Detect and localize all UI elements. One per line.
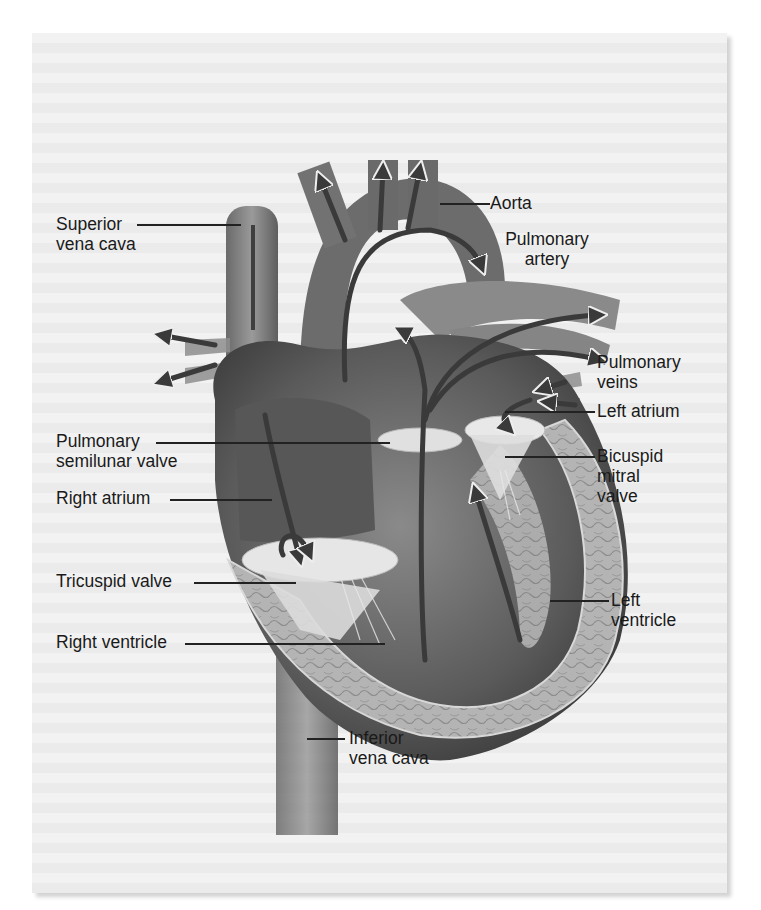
leader-tricuspid-valve xyxy=(194,582,296,584)
pulmonary-semilunar-valve-shape xyxy=(378,428,462,452)
label-right-atrium: Right atrium xyxy=(56,488,150,508)
right-atrium-chamber xyxy=(235,398,375,542)
label-pulmonary-artery: Pulmonary artery xyxy=(488,229,606,269)
label-left-atrium: Left atrium xyxy=(597,401,680,421)
label-superior-vena-cava: Superior vena cava xyxy=(56,214,136,254)
label-pulmonary-veins: Pulmonary veins xyxy=(597,352,681,392)
leader-left-atrium xyxy=(505,411,595,413)
label-tricuspid-valve: Tricuspid valve xyxy=(56,571,172,591)
leader-pulmonary-semilunar-valve xyxy=(156,442,390,444)
leader-bicuspid-mitral-valve xyxy=(505,456,595,458)
label-aorta: Aorta xyxy=(490,193,532,213)
label-pulmonary-semilunar-valve: Pulmonary semilunar valve xyxy=(56,431,178,471)
leader-inferior-vena-cava xyxy=(307,738,345,740)
leader-right-ventricle xyxy=(185,643,385,645)
label-inferior-vena-cava: Inferior vena cava xyxy=(349,728,429,768)
label-bicuspid-mitral-valve: Bicuspid mitral valve xyxy=(597,446,663,506)
leader-superior-vena-cava xyxy=(137,224,241,226)
leader-right-atrium xyxy=(170,499,272,501)
leader-aorta xyxy=(440,203,490,205)
label-left-ventricle: Left ventricle xyxy=(611,590,676,630)
leader-left-ventricle xyxy=(550,600,609,602)
label-right-ventricle: Right ventricle xyxy=(56,632,167,652)
